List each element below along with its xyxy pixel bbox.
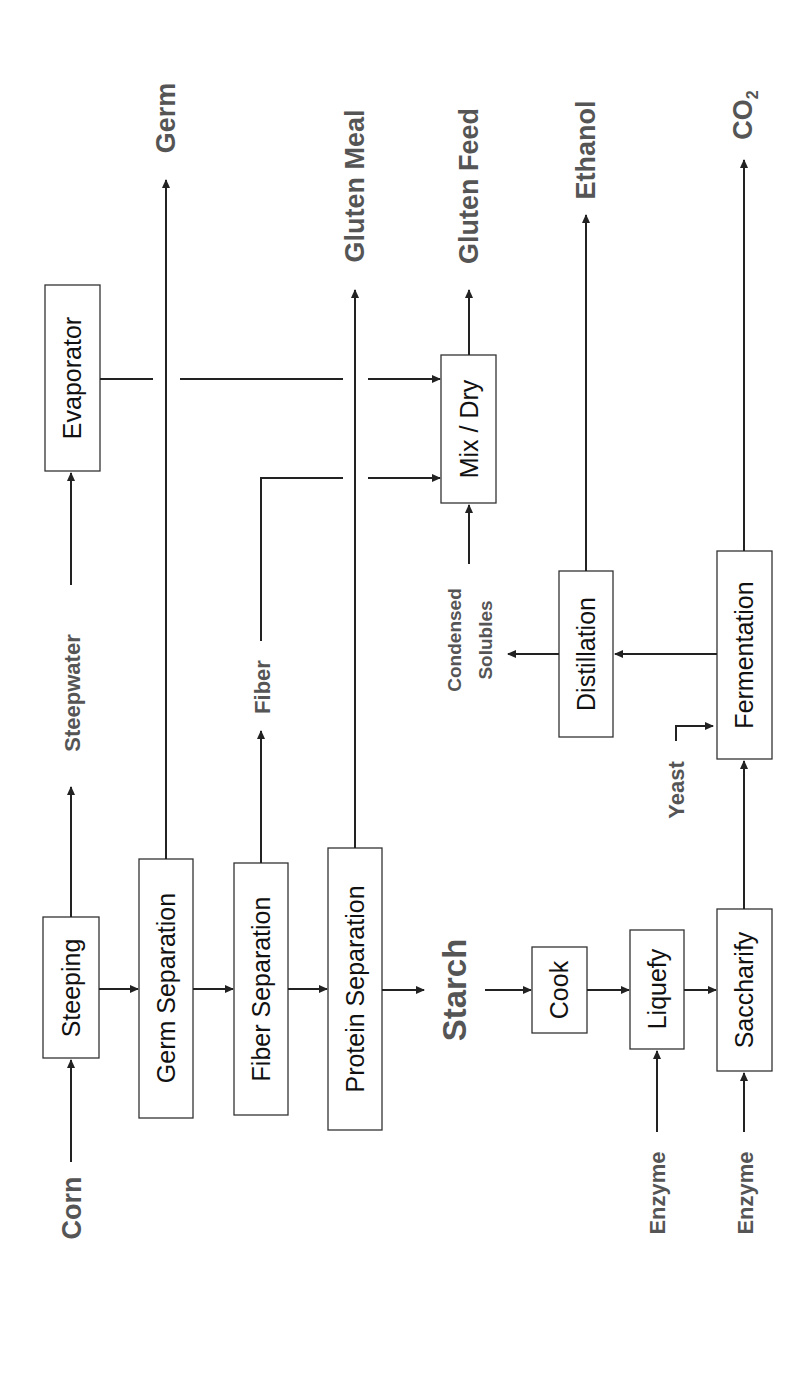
steeping-label: Steeping — [57, 939, 85, 1038]
protein-separation-label: Protein Separation — [341, 885, 369, 1092]
mix-dry-label: Mix / Dry — [455, 379, 483, 478]
fiber-separation-label: Fiber Separation — [247, 897, 275, 1082]
ethanol-output-label: Ethanol — [571, 101, 601, 200]
gluten-feed-output-label: Gluten Feed — [454, 108, 484, 264]
germ-output-label: Germ — [151, 83, 181, 154]
yeast-label: Yeast — [664, 761, 689, 819]
co2-output-label: CO2 — [728, 90, 761, 140]
corn-label: Corn — [57, 1177, 87, 1240]
germ-separation-label: Germ Separation — [152, 893, 180, 1083]
enzyme-label-2: Enzyme — [733, 1151, 758, 1234]
co2-subscript: 2 — [744, 90, 761, 99]
fiber-label: Fiber — [250, 660, 275, 714]
gluten-meal-output-label: Gluten Meal — [340, 109, 370, 262]
fermentation-label: Fermentation — [730, 581, 758, 728]
distillation-label: Distillation — [572, 597, 600, 711]
evaporator-label: Evaporator — [58, 317, 86, 439]
co2-main: CO — [728, 99, 758, 140]
yeast-to-fermentation-arrow — [676, 726, 713, 741]
liquefy-label: Liquefy — [643, 948, 671, 1029]
condensed-solubles-label-line2: Solubles — [475, 600, 496, 679]
condensed-solubles-label-line1: Condensed — [444, 588, 465, 691]
enzyme-label-1: Enzyme — [645, 1151, 670, 1234]
saccharify-label: Saccharify — [730, 931, 758, 1048]
starch-label: Starch — [436, 939, 473, 1042]
cook-label: Cook — [545, 960, 573, 1019]
process-flow-diagram: Steeping Evaporator Germ Separation Fibe… — [0, 0, 812, 1392]
steepwater-label: Steepwater — [60, 634, 85, 752]
fiber-to-mixdry-line — [261, 478, 343, 641]
